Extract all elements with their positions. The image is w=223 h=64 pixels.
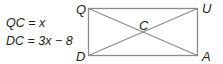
rectangle-diagram [0, 0, 223, 64]
center-label-c: C [139, 19, 148, 32]
vertex-label-q: Q [76, 3, 86, 16]
vertex-label-d: D [76, 50, 85, 63]
vertex-label-u: U [202, 2, 211, 15]
vertex-label-a: A [202, 50, 211, 63]
